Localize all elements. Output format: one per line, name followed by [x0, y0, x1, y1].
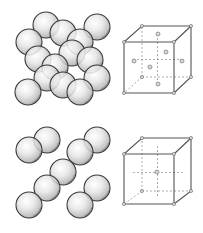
- lattice-point: [122, 202, 125, 205]
- lattice-point: [140, 75, 143, 78]
- atom-sphere: [67, 79, 93, 105]
- lattice-point: [172, 40, 175, 43]
- bcc-sphere-packing: [16, 127, 110, 218]
- lattice-point: [189, 24, 192, 27]
- center-lattice-point: [156, 82, 160, 86]
- lattice-point: [140, 24, 143, 27]
- center-lattice-point: [148, 65, 152, 69]
- atom-sphere: [15, 79, 41, 105]
- lattice-point: [140, 189, 143, 192]
- fcc-unit-cell: [122, 24, 192, 94]
- center-lattice-point: [155, 170, 159, 174]
- diagram-canvas: [0, 0, 203, 233]
- lattice-point: [189, 136, 192, 139]
- center-lattice-point: [164, 50, 168, 54]
- atom-sphere: [16, 137, 42, 163]
- lattice-point: [189, 189, 192, 192]
- lattice-point: [189, 75, 192, 78]
- lattice-point: [172, 152, 175, 155]
- atom-sphere: [67, 192, 93, 218]
- lattice-point: [122, 91, 125, 94]
- bcc-unit-cell: [122, 136, 192, 205]
- center-lattice-point: [180, 59, 184, 63]
- lattice-point: [140, 136, 143, 139]
- cube-front-face: [124, 154, 174, 204]
- fcc-sphere-packing: [15, 12, 110, 105]
- lattice-diagram: [0, 0, 203, 233]
- lattice-point: [172, 91, 175, 94]
- lattice-point: [122, 152, 125, 155]
- center-lattice-point: [156, 32, 160, 36]
- lattice-point: [122, 40, 125, 43]
- center-lattice-point: [132, 59, 136, 63]
- lattice-point: [172, 202, 175, 205]
- atom-sphere: [16, 192, 42, 218]
